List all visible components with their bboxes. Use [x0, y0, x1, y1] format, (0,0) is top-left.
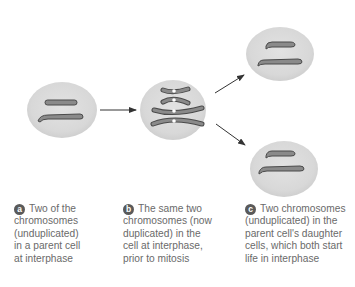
cell-a-body [27, 82, 97, 138]
caption-line: chromosomes (now [123, 215, 212, 226]
chromosome-short [45, 100, 77, 105]
centromere [172, 89, 176, 93]
caption-c: cTwo chromosomes (unduplicated) in the p… [245, 203, 355, 265]
label-badge-c: c [245, 204, 256, 215]
arrow-b-to-c-upper [215, 75, 244, 93]
label-badge-a: a [14, 204, 25, 215]
caption-line: The same two [138, 203, 202, 214]
centromere [172, 98, 176, 102]
caption-b: bThe same two chromosomes (now duplicate… [123, 203, 238, 265]
centromere [172, 119, 176, 123]
caption-line: cell at interphase, [123, 240, 203, 251]
caption-line: (unduplicated) in the [245, 215, 337, 226]
cell-a [27, 82, 97, 138]
centromere [172, 109, 176, 113]
cell-c-upper [246, 27, 314, 81]
caption-line: (unduplicated) [14, 228, 79, 239]
caption-line: in a parent cell [14, 240, 80, 251]
label-badge-b: b [123, 204, 134, 215]
caption-line: duplicated) in the [123, 228, 201, 239]
caption-line: chromosomes [14, 215, 78, 226]
cell-c-upper-body [246, 27, 314, 81]
caption-line: Two of the [29, 203, 76, 214]
caption-line: parent cell's daughter [245, 228, 342, 239]
caption-line: at interphase [14, 253, 73, 264]
caption-a: aTwo of the chromosomes (unduplicated) i… [14, 203, 114, 265]
caption-line: Two chromosomes [260, 203, 346, 214]
cell-c-lower [250, 141, 318, 197]
cell-b [140, 80, 206, 140]
caption-line: prior to mitosis [123, 253, 189, 264]
cell-division-diagram [0, 0, 355, 200]
caption-line: cells, which both start [245, 240, 342, 251]
caption-line: life in interphase [245, 253, 319, 264]
arrow-b-to-c-lower [216, 124, 245, 145]
